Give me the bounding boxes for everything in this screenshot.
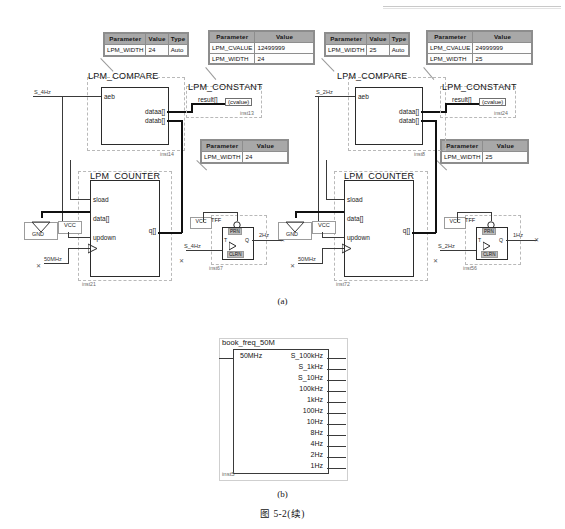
- table-row: LPM_WIDTH 25 Auto: [326, 44, 409, 55]
- table-row: LPM_CVALUE 12499999: [210, 42, 314, 53]
- symbol-output-stub: [327, 457, 346, 458]
- wire: [70, 160, 71, 200]
- compare-pin-aeb-right: aeb: [358, 93, 369, 100]
- symbol-output-port-4: 1kHz: [255, 396, 323, 403]
- constant-pin-result-right: result[]: [452, 96, 472, 103]
- figure-page: Parameter Value Type LPM_WIDTH 24 Auto P…: [0, 0, 565, 529]
- net-label-s4hz-left: S_4Hz: [34, 89, 51, 95]
- gnd-label-left: GND: [32, 231, 44, 237]
- param-header-parameter: Parameter: [326, 34, 367, 45]
- param-name: LPM_WIDTH: [210, 53, 255, 64]
- param-table-counter-left: Parameter Value LPM_WIDTH 24: [201, 140, 288, 163]
- wire: [68, 237, 90, 238]
- counter-pin-updown-right: updown: [347, 234, 370, 241]
- symbol-output-port-5: 100Hz: [255, 407, 323, 414]
- compare-pin-aeb-left: aeb: [104, 93, 115, 100]
- wire: [457, 212, 458, 222]
- wire: [322, 248, 344, 249]
- table-row: LPM_WIDTH 24: [210, 53, 314, 64]
- param-name: LPM_WIDTH: [326, 44, 367, 55]
- wire: [412, 232, 436, 234]
- table-row: LPM_WIDTH 24: [202, 151, 288, 162]
- param-value: 24: [255, 53, 314, 64]
- vcc-label-left: VCC: [58, 221, 82, 234]
- param-name: LPM_WIDTH: [428, 53, 473, 64]
- param-value: 12499999: [255, 42, 314, 53]
- wire: [70, 199, 90, 200]
- net-label-50mhz-left: 50MHz: [44, 256, 62, 262]
- net-label-s2hz-right: S_2Hz: [316, 89, 333, 95]
- param-value: 25: [483, 151, 528, 162]
- wire: [203, 212, 237, 213]
- vcc-label-tff-left: VCC: [190, 217, 212, 229]
- param-header-type: Type: [168, 34, 188, 45]
- symbol-output-port-7: 8Hz: [255, 429, 323, 436]
- counter-pin-q-left: q[]: [128, 227, 156, 234]
- symbol-output-stub: [327, 446, 346, 447]
- counter-pin-updown-left: updown: [93, 234, 116, 241]
- constant-value-chip-right[interactable]: (cvalue): [479, 98, 506, 106]
- tff-title-left: TFF: [211, 217, 221, 223]
- gnd-label-right: GND: [286, 231, 298, 237]
- table-row: LPM_WIDTH 24 Auto: [105, 44, 188, 55]
- counter-pin-q-right: q[]: [382, 227, 410, 234]
- table-row: LPM_WIDTH 25: [428, 53, 532, 64]
- symbol-output-port-8: 4Hz: [255, 440, 323, 447]
- param-header-type: Type: [389, 34, 409, 45]
- wire: [506, 240, 537, 241]
- symbol-output-port-3: 100kHz: [255, 385, 323, 392]
- wire: [44, 263, 68, 264]
- counter-pin-sload-left: sload: [93, 196, 109, 203]
- symbol-output-stub: [327, 424, 346, 425]
- symbol-output-port-6: 10Hz: [255, 418, 323, 425]
- tff-pin-q-left: Q: [245, 237, 249, 243]
- wire: [322, 248, 323, 264]
- wire: [298, 263, 322, 264]
- symbol-output-stub: [327, 380, 346, 381]
- param-table-constant-right: Parameter Value LPM_CVALUE 24999999 LPM_…: [427, 31, 532, 64]
- leader-line: [205, 67, 216, 80]
- wire: [318, 96, 319, 224]
- constant-pin-result-left: result[]: [198, 96, 218, 103]
- param-value: 24999999: [473, 42, 532, 53]
- clock-input-triangle-left: [88, 243, 100, 255]
- constant-value-chip-left[interactable]: (cvalue): [225, 98, 252, 106]
- symbol-output-stub: [327, 391, 346, 392]
- wire: [458, 103, 479, 105]
- port-marker: ✕: [534, 236, 539, 243]
- compare-title-left: LPM_COMPARE: [88, 71, 159, 81]
- wire: [62, 96, 63, 224]
- param-header-value: Value: [243, 141, 288, 152]
- wire: [41, 211, 90, 213]
- symbol-output-port-1: S_1kHz: [255, 363, 323, 370]
- wire: [326, 199, 344, 200]
- param-header-parameter: Parameter: [202, 141, 243, 152]
- param-header-value: Value: [483, 141, 528, 152]
- compare-pin-dataa-left: dataa[]: [125, 108, 165, 115]
- wire: [181, 120, 183, 233]
- symbol-output-port-0: S_100kHz: [255, 352, 323, 359]
- param-name: LPM_WIDTH: [442, 151, 483, 162]
- port-marker: ✕: [290, 262, 295, 269]
- wire: [491, 212, 492, 221]
- wire: [440, 250, 476, 251]
- figure-number: 图 5-2(续): [0, 506, 565, 520]
- param-header-parameter: Parameter: [210, 32, 255, 43]
- symbol-instance: inst5: [222, 471, 235, 477]
- constant-title-right: LPM_CONSTANT: [442, 82, 517, 92]
- wire: [68, 248, 90, 249]
- wire: [203, 212, 204, 222]
- param-name: LPM_CVALUE: [428, 42, 473, 53]
- param-header-value: Value: [473, 32, 532, 43]
- net-label-1hz-right: 1Hz: [513, 232, 523, 238]
- tff-pin-t-right: T: [478, 237, 481, 243]
- param-type: Auto: [168, 44, 188, 55]
- compare-title-right: LPM_COMPARE: [337, 71, 408, 81]
- tff-title-right: TFF: [465, 217, 475, 223]
- tff-instance-left: inst67: [209, 265, 223, 271]
- param-header-parameter: Parameter: [105, 34, 146, 45]
- wire: [237, 212, 238, 221]
- param-value: 24: [243, 151, 288, 162]
- symbol-input-stub: [219, 358, 233, 359]
- leader-line: [100, 58, 113, 72]
